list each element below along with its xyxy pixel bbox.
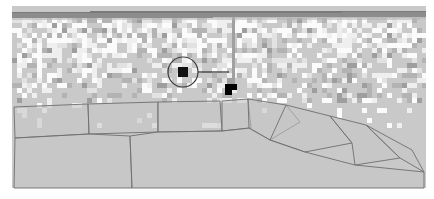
imagery-pixel <box>42 88 47 93</box>
imagery-pixel <box>282 28 287 33</box>
imagery-pixel <box>17 43 22 48</box>
imagery-pixel <box>217 88 222 93</box>
imagery-pixel <box>242 68 247 73</box>
imagery-pixel <box>347 68 352 73</box>
imagery-pixel <box>72 53 77 58</box>
imagery-pixel <box>237 23 242 28</box>
selected-feature-marker[interactable] <box>168 57 199 88</box>
imagery-pixel <box>217 63 227 68</box>
imagery-pixel <box>37 73 42 78</box>
imagery-pixel <box>82 43 87 48</box>
leader-line[interactable] <box>198 69 226 76</box>
imagery-pixel <box>292 68 297 73</box>
imagery-pixel <box>182 38 187 43</box>
imagery-pixel <box>107 43 117 48</box>
imagery-pixel <box>152 33 157 38</box>
imagery-pixel <box>72 48 77 53</box>
imagery-pixel <box>57 28 62 33</box>
selected-building-footprint[interactable] <box>224 83 240 96</box>
imagery-pixel <box>177 33 182 38</box>
imagery-pixel <box>342 33 347 38</box>
imagery-pixel <box>162 78 167 83</box>
imagery-pixel <box>292 23 297 28</box>
imagery-pixel <box>157 33 162 38</box>
imagery-pixel <box>422 48 426 53</box>
imagery-pixel <box>192 23 197 28</box>
imagery-pixel <box>317 33 322 38</box>
imagery-pixel <box>297 63 307 68</box>
imagery-pixel <box>402 38 407 43</box>
imagery-pixel <box>342 23 347 28</box>
parcel-boundaries-layer[interactable] <box>12 98 426 188</box>
imagery-pixel <box>207 83 212 88</box>
imagery-pixel <box>272 38 277 43</box>
imagery-pixel <box>142 38 147 43</box>
imagery-pixel <box>32 83 37 88</box>
imagery-pixel <box>212 53 217 58</box>
imagery-pixel <box>57 23 62 28</box>
imagery-pixel <box>77 68 82 73</box>
imagery-pixel <box>282 68 287 73</box>
vertical-road[interactable] <box>230 17 237 85</box>
imagery-pixel <box>177 38 182 43</box>
imagery-pixel <box>62 23 67 28</box>
imagery-pixel <box>352 38 357 43</box>
imagery-pixel <box>212 58 217 63</box>
imagery-pixel <box>177 88 182 93</box>
imagery-pixel <box>222 53 227 58</box>
map-viewport[interactable] <box>0 0 434 199</box>
imagery-pixel <box>377 48 382 53</box>
imagery-pixel <box>147 33 152 38</box>
imagery-pixel <box>297 88 302 93</box>
imagery-pixel <box>337 28 342 33</box>
imagery-pixel <box>37 78 42 83</box>
imagery-pixel <box>202 48 207 53</box>
imagery-pixel <box>257 83 262 88</box>
imagery-pixel <box>292 48 297 53</box>
imagery-pixel <box>187 33 192 38</box>
imagery-pixel <box>17 33 22 38</box>
imagery-pixel <box>287 63 292 68</box>
imagery-pixel <box>47 88 52 93</box>
imagery-pixel <box>47 28 52 33</box>
imagery-pixel <box>82 28 87 33</box>
imagery-pixel <box>392 33 397 38</box>
imagery-pixel <box>332 38 337 43</box>
imagery-pixel <box>207 28 217 33</box>
imagery-pixel <box>187 43 197 48</box>
imagery-pixel <box>257 53 267 58</box>
imagery-pixel <box>352 73 357 78</box>
imagery-pixel <box>92 63 97 68</box>
imagery-pixel <box>252 78 257 83</box>
imagery-pixel <box>107 68 117 73</box>
imagery-pixel <box>367 43 372 48</box>
imagery-pixel <box>272 83 277 88</box>
imagery-pixel <box>92 28 102 33</box>
imagery-pixel <box>27 43 32 48</box>
horizontal-road[interactable] <box>12 11 426 19</box>
imagery-pixel <box>337 88 342 93</box>
imagery-pixel <box>277 78 282 83</box>
imagery-pixel <box>417 68 422 73</box>
imagery-pixel <box>307 83 312 88</box>
imagery-pixel <box>22 33 27 38</box>
imagery-pixel <box>357 53 362 58</box>
imagery-pixel <box>382 33 387 38</box>
imagery-pixel <box>162 53 172 58</box>
imagery-pixel <box>422 58 426 63</box>
imagery-pixel <box>57 68 62 73</box>
imagery-pixel <box>312 88 317 93</box>
imagery-pixel <box>147 28 152 33</box>
imagery-pixel <box>27 48 32 53</box>
imagery-pixel <box>132 68 137 73</box>
imagery-pixel <box>82 53 87 58</box>
imagery-pixel <box>247 23 252 28</box>
imagery-pixel <box>287 43 292 48</box>
imagery-pixel <box>72 63 77 68</box>
imagery-pixel <box>292 28 297 33</box>
imagery-pixel <box>147 48 157 53</box>
imagery-pixel <box>342 68 347 73</box>
imagery-pixel <box>277 28 282 33</box>
imagery-pixel <box>97 58 102 63</box>
imagery-pixel <box>22 78 27 83</box>
